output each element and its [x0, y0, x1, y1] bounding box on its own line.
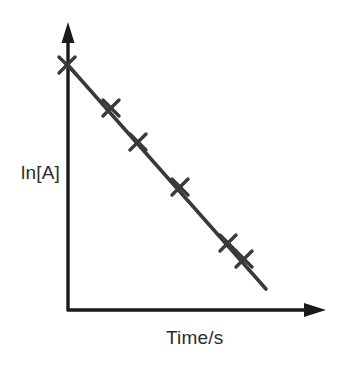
trend-line [67, 64, 266, 289]
chart-figure: ln[A] Time/s [0, 0, 347, 369]
y-axis-label: ln[A] [21, 162, 60, 184]
y-axis-arrowhead-icon [62, 22, 75, 43]
plot-canvas [0, 0, 347, 369]
x-axis-label: Time/s [166, 327, 224, 349]
data-point-3 [130, 134, 146, 150]
x-axis-arrowhead-icon [304, 303, 326, 317]
